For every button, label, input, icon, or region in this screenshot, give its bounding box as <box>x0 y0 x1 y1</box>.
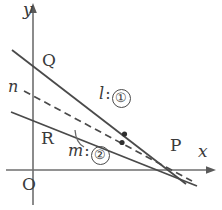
line-label-l: l:① <box>99 86 131 108</box>
line-label-l-number: ① <box>112 89 131 108</box>
origin-label: O <box>22 176 36 193</box>
geometry-figure: y x O Q R P n l:① m:② <box>0 0 222 210</box>
point-label-q: Q <box>42 52 56 69</box>
x-axis <box>6 166 216 174</box>
line-label-n: n <box>8 79 18 95</box>
point-label-r: R <box>41 130 54 147</box>
line-label-m-name: m <box>68 141 83 160</box>
line-label-m-number: ② <box>91 146 110 165</box>
x-axis-label: x <box>198 143 208 160</box>
point-label-p: P <box>170 137 181 154</box>
line-label-m: m:② <box>68 143 110 165</box>
line-label-l-separator: : <box>104 84 111 103</box>
y-axis-label: y <box>23 1 33 18</box>
line-label-m-separator: : <box>83 141 90 160</box>
